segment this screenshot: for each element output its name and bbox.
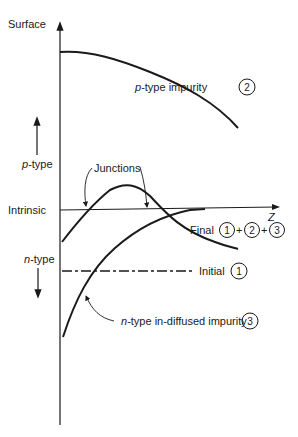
surface-label: Surface: [8, 18, 46, 30]
final-plus-1: +: [236, 224, 242, 236]
p-impurity-num: 2: [244, 82, 250, 93]
junction-pointer-right: [140, 167, 147, 207]
diffusion-profile-diagram: Surface Z Intrinsic p-type n-type p-type…: [0, 0, 298, 437]
final-plus-2: +: [261, 224, 267, 236]
p-type-label: p-type: [21, 158, 53, 170]
n-type-label: n-type: [24, 253, 55, 265]
n-impurity-num: 3: [247, 316, 253, 327]
junctions-label: Junctions: [94, 162, 141, 174]
final-num-1: 1: [224, 225, 230, 236]
n-impurity-label: n-type in-diffused impurity: [121, 315, 247, 327]
p-impurity-label: p-type impurity: [134, 81, 208, 93]
intrinsic-label: Intrinsic: [8, 204, 46, 216]
z-axis-label: Z: [267, 211, 276, 223]
final-label: Final: [190, 224, 214, 236]
initial-num: 1: [236, 266, 242, 277]
initial-label: Initial: [199, 265, 225, 277]
final-num-3: 3: [274, 225, 280, 236]
junction-pointer-left: [85, 168, 92, 206]
n-impurity-pointer: [86, 296, 114, 321]
final-profile-curve: [62, 185, 238, 249]
final-num-2: 2: [249, 225, 255, 236]
